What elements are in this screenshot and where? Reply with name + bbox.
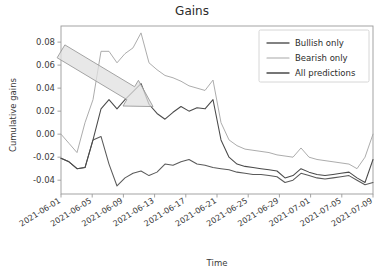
- legend-label: Bullish only: [295, 38, 344, 48]
- trend-arrow-annotation: [57, 45, 153, 107]
- y-tick-label: -0.04: [33, 175, 55, 185]
- legend-label: Bearish only: [295, 53, 348, 63]
- y-tick-label: 0.04: [36, 83, 55, 93]
- gains-chart: Gains Cumulative gains Time 0.080.060.04…: [0, 0, 384, 278]
- legend-label: All predictions: [295, 68, 356, 78]
- y-tick-label: 0.08: [36, 37, 55, 47]
- y-tick-label: -0.02: [33, 152, 55, 162]
- y-tick-label: 0.00: [36, 129, 55, 139]
- y-tick-label: 0.06: [36, 60, 55, 70]
- y-tick-label: 0.02: [36, 106, 55, 116]
- plot-surface: 0.080.060.040.020.00-0.02-0.042021-06-01…: [0, 0, 384, 278]
